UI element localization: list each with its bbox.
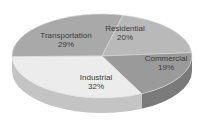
label-residential-pct: 20%: [105, 33, 145, 42]
label-residential: Residential 20%: [105, 24, 145, 42]
label-commercial: Commercial 19%: [145, 54, 188, 72]
label-commercial-name: Commercial: [145, 54, 188, 63]
label-transportation-pct: 29%: [40, 40, 91, 49]
label-industrial-name: Industrial: [80, 73, 112, 82]
label-transportation-name: Transportation: [40, 31, 91, 40]
label-transportation: Transportation 29%: [40, 31, 91, 49]
label-residential-name: Residential: [105, 24, 145, 33]
label-industrial: Industrial 32%: [80, 73, 112, 91]
label-commercial-pct: 19%: [145, 63, 188, 72]
label-industrial-pct: 32%: [80, 82, 112, 91]
